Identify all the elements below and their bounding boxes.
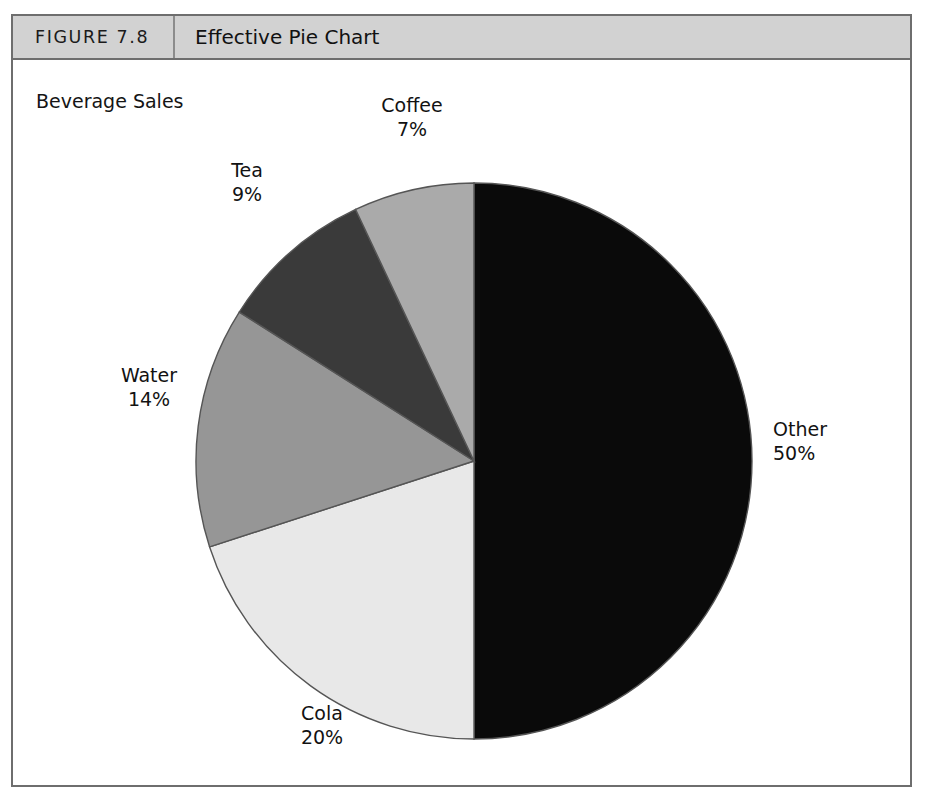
- slice-label-coffee: Coffee 7%: [352, 94, 472, 142]
- slice-label-coffee-value: 7%: [352, 118, 472, 142]
- slice-label-water-value: 14%: [85, 388, 213, 412]
- slice-label-cola: Cola 20%: [258, 702, 386, 750]
- figure-number-label: FIGURE 7.8: [13, 16, 175, 58]
- chart-area: Beverage Sales Coffee 7% Tea 9% Water 14…: [13, 60, 910, 785]
- slice-label-other-name: Other: [773, 418, 903, 442]
- figure-title: Effective Pie Chart: [175, 25, 379, 49]
- slice-label-water: Water 14%: [85, 364, 213, 412]
- figure-container: FIGURE 7.8 Effective Pie Chart Beverage …: [11, 14, 912, 787]
- slice-label-water-name: Water: [85, 364, 213, 388]
- slice-label-cola-value: 20%: [258, 726, 386, 750]
- slice-label-cola-name: Cola: [258, 702, 386, 726]
- slice-label-tea-value: 9%: [195, 183, 299, 207]
- slice-label-tea: Tea 9%: [195, 159, 299, 207]
- slice-label-tea-name: Tea: [195, 159, 299, 183]
- slice-label-other: Other 50%: [773, 418, 903, 466]
- slice-label-other-value: 50%: [773, 442, 903, 466]
- pie-slice-other: [474, 183, 752, 739]
- figure-header: FIGURE 7.8 Effective Pie Chart: [13, 16, 910, 60]
- slice-label-coffee-name: Coffee: [352, 94, 472, 118]
